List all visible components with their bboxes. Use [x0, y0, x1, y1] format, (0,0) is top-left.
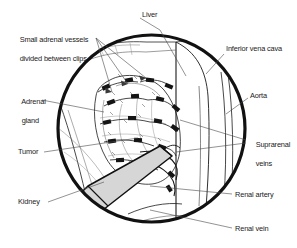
label-inferior-vena-cava: Inferior vena cava — [226, 44, 282, 53]
label-renal-artery: Renal artery — [235, 190, 273, 199]
label-suprarenal-veins-line2: veins — [256, 159, 273, 168]
label-adrenal-gland-line2: gland — [22, 116, 39, 125]
label-adrenal-gland-line1: Adrenal — [21, 97, 45, 106]
label-small-adrenal-vessels-line1: Small adrenal vessels — [20, 35, 89, 44]
label-aorta: Aorta — [250, 91, 267, 100]
label-adrenal-gland: Adrenal gland — [14, 88, 46, 135]
label-small-adrenal-vessels: Small adrenal vessels divided between cl… — [12, 26, 88, 73]
surgical-illustration-figure: Small adrenal vessels divided between cl… — [0, 0, 297, 248]
label-suprarenal-veins: Suprarenal veins — [248, 131, 290, 178]
label-kidney: Kidney — [18, 197, 40, 206]
label-liver: Liver — [142, 10, 157, 19]
label-suprarenal-veins-line1: Suprarenal — [256, 140, 291, 149]
label-renal-vein: Renal vein — [235, 224, 268, 233]
label-small-adrenal-vessels-line2: divided between clips — [20, 54, 87, 63]
label-tumor: Tumor — [18, 147, 38, 156]
